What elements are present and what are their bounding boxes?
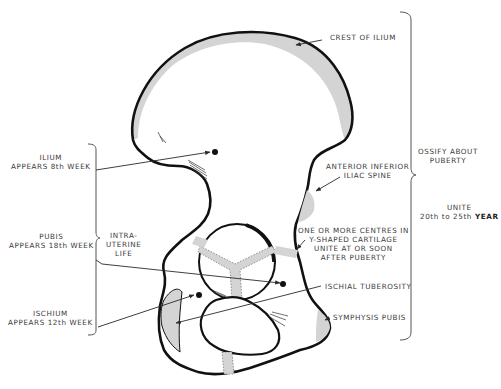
pubis-line2: APPEARS 18th WEEK xyxy=(9,241,94,250)
label-intra-uterine-life: INTRA- UTERINE LIFE xyxy=(106,231,141,258)
iul-line2: UTERINE xyxy=(106,240,141,249)
ilium-leader xyxy=(96,152,210,170)
label-ilium: ILIUM APPEARS 8th WEEK xyxy=(11,153,91,171)
label-ischium: ISCHIUM APPEARS 12th WEEK xyxy=(8,309,93,327)
label-ossify-about-puberty: OSSIFY ABOUT PUBERTY xyxy=(418,147,478,165)
oap-line1: OSSIFY ABOUT xyxy=(418,147,478,156)
symphysis-cartilage xyxy=(316,310,330,342)
ilium-centre-dot xyxy=(212,149,218,155)
ischium-line1: ISCHIUM xyxy=(8,309,93,318)
label-symphysis-pubis: SYMPHYSIS PUBIS xyxy=(333,313,406,322)
iliac-crest-cartilage xyxy=(132,32,352,140)
ycart-line2: Y-SHAPED CARTILAGE xyxy=(298,235,409,244)
ischium-line2: APPEARS 12th WEEK xyxy=(8,318,93,327)
aiis-line2: ILIAC SPINE xyxy=(326,171,409,180)
pubic-ramus-cartilage xyxy=(222,352,234,374)
iul-line1: INTRA- xyxy=(106,231,141,240)
label-crest-of-ilium: CREST OF ILIUM xyxy=(330,33,396,42)
unite-line1: UNITE xyxy=(420,203,499,212)
label-pubis: PUBIS APPEARS 18th WEEK xyxy=(9,232,94,250)
ischium-centre-dot xyxy=(196,292,202,298)
unite-year-word: YEAR xyxy=(475,212,499,221)
ycart-line3: UNITE AT OR SOON xyxy=(298,244,409,253)
unite-line2: 20th to 25th YEAR xyxy=(420,212,499,221)
ilium-line2: APPEARS 8th WEEK xyxy=(11,162,91,171)
label-y-shaped-cartilage: ONE OR MORE CENTRES IN Y-SHAPED CARTILAG… xyxy=(298,226,409,262)
aiis-line1: ANTERIOR INFERIOR xyxy=(326,162,409,171)
ilium-line1: ILIUM xyxy=(11,153,91,162)
label-ischial-tuberosity: ISCHIAL TUBEROSITY xyxy=(325,282,411,291)
iul-line3: LIFE xyxy=(106,249,141,258)
ycart-line1: ONE OR MORE CENTRES IN xyxy=(298,226,409,235)
aiis-cartilage xyxy=(298,190,315,222)
hip-bone-illustration xyxy=(0,0,501,389)
pubis-centre-dot xyxy=(280,281,286,287)
ischial-cartilage xyxy=(161,289,182,352)
oap-line2: PUBERTY xyxy=(418,156,478,165)
pubis-line1: PUBIS xyxy=(9,232,94,241)
hip-bone-ossification-diagram: CREST OF ILIUM ANTERIOR INFERIOR ILIAC S… xyxy=(0,0,501,389)
obturator-foramen xyxy=(201,297,279,355)
y-cartilage-ext-right xyxy=(274,246,298,258)
label-anterior-inferior-iliac-spine: ANTERIOR INFERIOR ILIAC SPINE xyxy=(326,162,409,180)
ycart-line4: AFTER PUBERTY xyxy=(298,253,409,262)
unite-years: 20th to 25th xyxy=(420,212,472,221)
label-unite: UNITE 20th to 25th YEAR xyxy=(420,203,499,221)
